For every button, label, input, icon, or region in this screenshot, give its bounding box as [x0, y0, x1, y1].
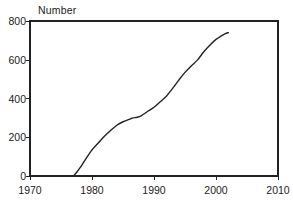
chart-container: Number 800 600 400 200 0 1970 1980 1990 … [0, 0, 293, 204]
plot-area [0, 0, 293, 204]
x-axis-ticks [30, 176, 278, 180]
y-axis-ticks [26, 21, 30, 176]
plot-frame [30, 21, 278, 176]
